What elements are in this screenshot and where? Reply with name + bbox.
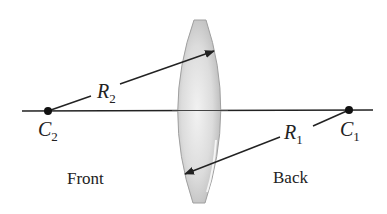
- c2-point: [44, 107, 52, 115]
- lens-diagram: R2 R1 C2 C1 Front Back: [0, 0, 387, 214]
- r1-label: R1: [283, 121, 303, 147]
- front-label: Front: [67, 169, 104, 188]
- r2-label: R2: [96, 80, 116, 106]
- c1-label: C1: [340, 118, 360, 144]
- back-label: Back: [273, 168, 308, 187]
- c2-label: C2: [38, 118, 58, 144]
- c1-point: [345, 106, 353, 114]
- biconvex-lens: [178, 20, 221, 203]
- r2-arrow-segment-a: [48, 96, 91, 111]
